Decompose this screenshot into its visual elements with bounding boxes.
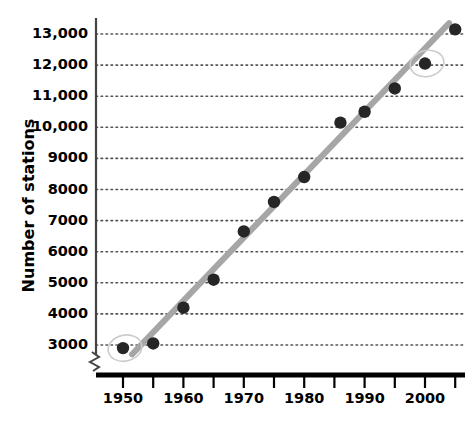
data-point bbox=[419, 57, 431, 69]
chart-container: Number of stations 300040005000600070008… bbox=[0, 0, 471, 448]
data-point bbox=[298, 171, 310, 183]
x-axis-ticks bbox=[123, 377, 455, 388]
data-point bbox=[358, 106, 370, 118]
data-point bbox=[207, 273, 219, 285]
data-point bbox=[389, 82, 401, 94]
data-point bbox=[334, 116, 346, 128]
axis-break-icon bbox=[90, 352, 99, 371]
data-point bbox=[147, 337, 159, 349]
data-point bbox=[177, 301, 189, 313]
data-point bbox=[268, 196, 280, 208]
gridlines bbox=[96, 34, 465, 345]
plot-area bbox=[0, 0, 471, 448]
data-point bbox=[238, 225, 250, 237]
data-point bbox=[449, 23, 461, 35]
data-point bbox=[117, 342, 129, 354]
